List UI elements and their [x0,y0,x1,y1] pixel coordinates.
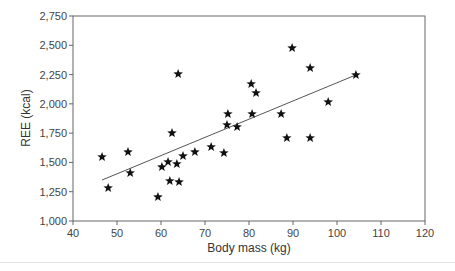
y-tick-label: 2,000 [39,98,67,110]
star-marker-icon [157,162,167,171]
star-marker-icon [173,69,183,78]
y-axis-title: REE (kcal) [19,89,33,146]
y-tick-label: 1,000 [39,215,67,227]
star-marker-icon [232,122,242,131]
y-tick-label: 1,750 [39,127,67,139]
plot-border [73,16,425,221]
x-tick-label: 100 [328,227,346,239]
y-tick-label: 1,500 [39,156,67,168]
y-axis: 1,0001,2501,5001,7502,0002,2502,5002,750 [39,10,73,227]
star-marker-icon [174,177,184,186]
star-marker-icon [153,192,163,201]
star-marker-icon [165,176,175,185]
y-tick-label: 2,750 [39,10,67,22]
star-marker-icon [276,109,286,118]
star-marker-icon [219,148,229,157]
star-marker-icon [97,152,107,161]
star-marker-icon [246,79,256,88]
star-marker-icon [167,128,177,137]
star-marker-icon [305,63,315,72]
y-tick-label: 2,500 [39,39,67,51]
x-axis-title: Body mass (kg) [207,241,290,255]
star-marker-icon [206,142,216,151]
star-marker-icon [282,133,292,142]
star-marker-icon [251,88,261,97]
star-marker-icon [323,97,333,106]
star-marker-icon [190,147,200,156]
x-tick-label: 120 [416,227,434,239]
star-marker-icon [123,147,133,156]
star-marker-icon [103,183,113,192]
x-tick-label: 70 [199,227,211,239]
star-marker-icon [305,133,315,142]
star-marker-icon [287,43,297,52]
divider [0,262,455,263]
y-tick-label: 2,250 [39,69,67,81]
x-axis: 405060708090100110120 [67,221,434,239]
scatter-chart: 1,0001,2501,5001,7502,0002,2502,5002,750… [0,0,455,271]
x-tick-label: 40 [67,227,79,239]
star-marker-icon [163,157,173,166]
x-tick-label: 50 [111,227,123,239]
data-points [97,43,360,201]
x-tick-label: 90 [287,227,299,239]
plot-frame [73,16,425,221]
star-marker-icon [178,151,188,160]
x-tick-label: 110 [372,227,390,239]
x-tick-label: 80 [243,227,255,239]
star-marker-icon [172,159,182,168]
x-tick-label: 60 [155,227,167,239]
y-tick-label: 1,250 [39,186,67,198]
star-marker-icon [223,109,233,118]
star-marker-icon [222,120,232,129]
star-marker-icon [351,70,361,79]
